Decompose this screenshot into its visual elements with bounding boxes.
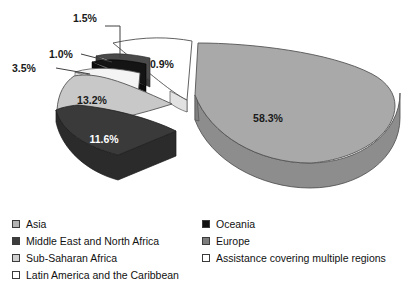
legend-label-europe: Europe [216,235,250,247]
legend-label-asia: Asia [26,218,46,230]
legend-item-middle-east-and-north-africa[interactable]: Middle East and North Africa [12,233,179,249]
chart-legend: Asia Middle East and North Africa Sub-Sa… [0,216,405,286]
chart-plot-area: 58.3% 10.9% [0,0,405,212]
legend-swatch-europe [202,237,210,245]
legend-item-latin-america-and-the-caribbean[interactable]: Latin America and the Caribbean [12,267,179,283]
slice-label-latin-america: 3.5% [12,62,37,74]
slice-label-oceania: 1.0% [49,48,74,60]
legend-swatch-assistance-covering-multiple-regions [202,254,210,262]
legend-column-left: Asia Middle East and North Africa Sub-Sa… [12,216,179,284]
legend-item-asia[interactable]: Asia [12,216,179,232]
legend-item-sub-saharan-africa[interactable]: Sub-Saharan Africa [12,250,179,266]
legend-item-assistance-covering-multiple-regions[interactable]: Assistance covering multiple regions [202,250,386,266]
pie-chart-svg: 58.3% 10.9% [0,0,405,212]
legend-item-oceania[interactable]: Oceania [202,216,386,232]
slice-middle-east: 11.6% [56,105,176,180]
legend-column-right: Oceania Europe Assistance covering multi… [202,216,386,267]
legend-swatch-oceania [202,220,210,228]
legend-label-assistance-covering-multiple-regions: Assistance covering multiple regions [216,252,386,264]
legend-swatch-asia [12,220,20,228]
pie-chart-figure: 58.3% 10.9% [0,0,405,286]
legend-label-middle-east-and-north-africa: Middle East and North Africa [26,235,159,247]
slice-label-sub-saharan: 13.2% [77,94,107,106]
slice-label-asia: 58.3% [253,112,283,124]
legend-item-europe[interactable]: Europe [202,233,386,249]
legend-swatch-latin-america-and-the-caribbean [12,271,20,279]
legend-label-sub-saharan-africa: Sub-Saharan Africa [26,252,117,264]
legend-swatch-middle-east-and-north-africa [12,237,20,245]
slice-asia: 58.3% [195,43,400,188]
legend-label-oceania: Oceania [216,218,255,230]
slice-label-europe: 1.5% [73,12,98,24]
legend-label-latin-america-and-the-caribbean: Latin America and the Caribbean [26,269,179,281]
slice-label-middle-east: 11.6% [89,133,119,145]
legend-swatch-sub-saharan-africa [12,254,20,262]
